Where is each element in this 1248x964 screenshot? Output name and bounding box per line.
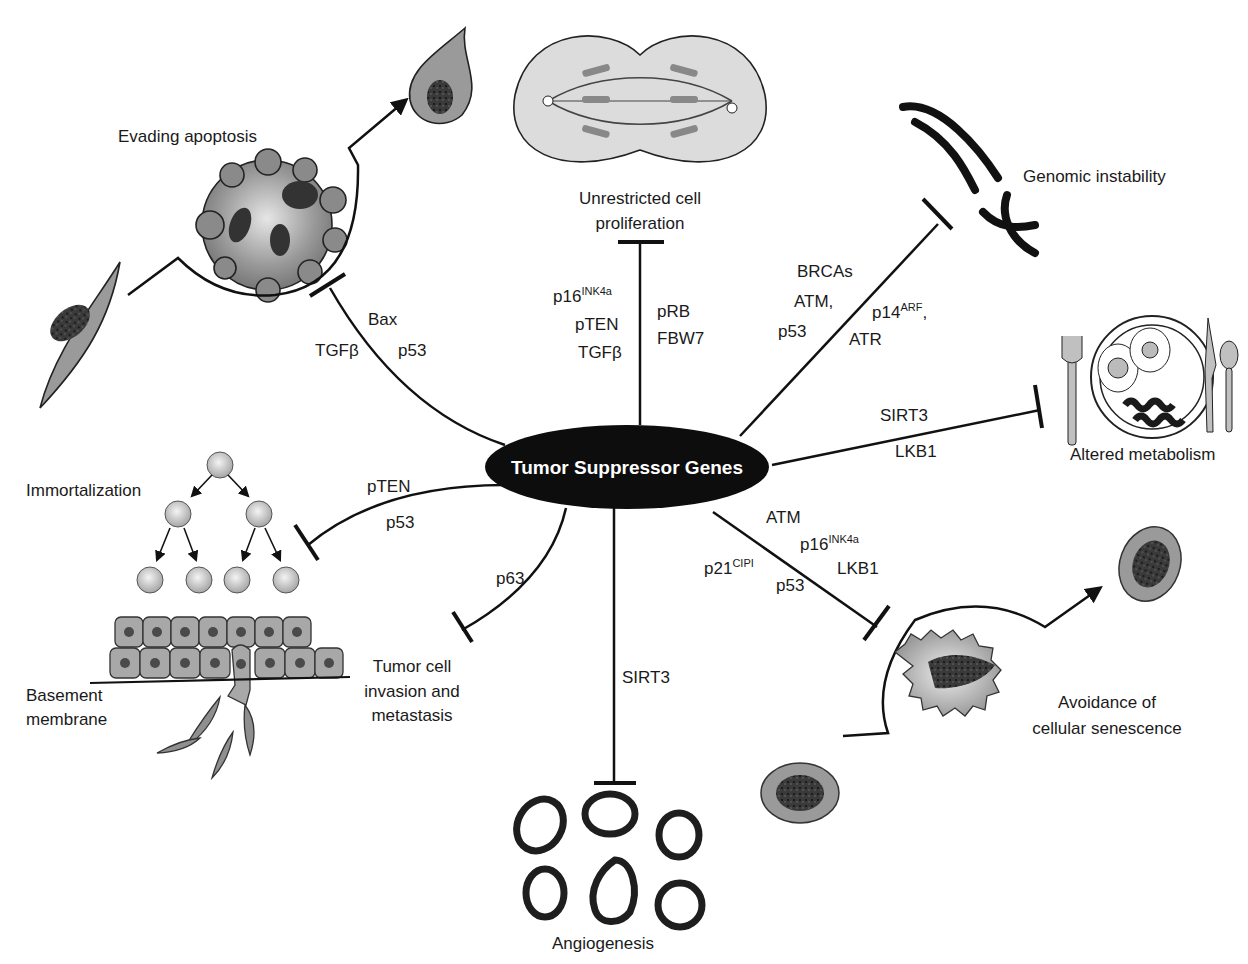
gene-p53: p53	[398, 341, 426, 360]
apoptotic-cell-icon	[196, 149, 347, 302]
label-proliferation-2: proliferation	[596, 214, 685, 233]
epithelium-icon	[110, 617, 343, 705]
genomic-instability-panel: Genomic instability BRCAs ATM, p53 p14AR…	[778, 106, 1166, 349]
spoon-icon	[1220, 341, 1238, 432]
tumor-suppressor-diagram: Tumor Suppressor Genes Evading apoptosis	[0, 0, 1248, 964]
gene-sirt3: SIRT3	[880, 406, 928, 425]
label-proliferation-1: Unrestricted cell	[579, 189, 701, 208]
gene-tgfb: TGFβ	[315, 341, 359, 360]
label-senescence-2: cellular senescence	[1032, 719, 1181, 738]
gene-lkb1: LKB1	[837, 559, 879, 578]
gene-prb: pRB	[657, 302, 690, 321]
broken-chromosome-icon	[903, 106, 1035, 253]
evading-apoptosis-panel: Evading apoptosis Bax TGFβ p53	[40, 28, 472, 408]
inhibit-bar-metabolism	[1035, 385, 1042, 428]
migrating-cells-icon	[157, 697, 254, 778]
nucleus-icon	[427, 80, 453, 114]
cell-division-tree-icon	[137, 452, 299, 593]
label-immortalization: Immortalization	[26, 481, 141, 500]
label-altered-metabolism: Altered metabolism	[1070, 445, 1216, 464]
gene-atr: ATR	[849, 330, 882, 349]
invasion-panel: Basement membrane Tumor cell invasion an…	[26, 569, 524, 778]
edge-apoptosis	[330, 288, 505, 445]
gene-lkb1: LKB1	[895, 442, 937, 461]
inhibit-bar-immortalization	[295, 525, 318, 560]
gene-fbw7: FBW7	[657, 329, 704, 348]
edge-genomic	[740, 224, 938, 436]
label-senescence-1: Avoidance of	[1058, 693, 1156, 712]
label-invasion-1: Tumor cell	[373, 657, 452, 676]
gene-tgfb: TGFβ	[578, 343, 622, 362]
dividing-cell-icon	[514, 36, 766, 162]
gene-p16: p16INK4a	[553, 285, 613, 306]
label-basement-1: Basement	[26, 686, 103, 705]
altered-metabolism-panel: Altered metabolism SIRT3 LKB1	[880, 316, 1238, 464]
gene-p21: p21CIPI	[704, 557, 754, 578]
label-angiogenesis: Angiogenesis	[552, 934, 654, 953]
gene-bax: Bax	[368, 310, 398, 329]
label-invasion-3: metastasis	[371, 706, 452, 725]
label-invasion-2: invasion and	[364, 682, 459, 701]
immortalization-panel: Immortalization pTEN p53	[26, 452, 414, 593]
gene-pten: pTEN	[367, 477, 410, 496]
gene-sirt3: SIRT3	[622, 668, 670, 687]
gene-p53: p53	[386, 513, 414, 532]
escaped-cell-icon	[1109, 518, 1191, 610]
gene-brcas: BRCAs	[797, 262, 853, 281]
center-node: Tumor Suppressor Genes	[485, 425, 769, 509]
gene-p14arf: p14ARF,	[872, 301, 927, 322]
normal-cell-icon	[761, 763, 839, 823]
gene-p16: p16INK4a	[800, 533, 860, 554]
gene-pten: pTEN	[575, 315, 618, 334]
knife-icon	[1205, 318, 1216, 432]
label-genomic-instability: Genomic instability	[1023, 167, 1166, 186]
blood-vessels-icon	[507, 791, 702, 927]
gene-atm: ATM	[766, 508, 801, 527]
label-evading-apoptosis: Evading apoptosis	[118, 127, 257, 146]
fork-icon	[1062, 336, 1082, 445]
inhibit-bar-senescence	[864, 606, 889, 640]
senescence-panel: ATM p16INK4a LKB1 p21CIPI p53 Avoidance …	[704, 508, 1191, 823]
angiogenesis-panel: SIRT3 Angiogenesis	[507, 668, 702, 953]
gene-p53: p53	[778, 322, 806, 341]
label-basement-2: membrane	[26, 710, 107, 729]
center-label: Tumor Suppressor Genes	[511, 457, 743, 478]
senescent-cell-icon	[895, 630, 1001, 716]
gene-atm: ATM,	[794, 292, 833, 311]
gene-p63: p63	[496, 569, 524, 588]
plate-icon	[1091, 316, 1213, 438]
gene-p53: p53	[776, 576, 804, 595]
